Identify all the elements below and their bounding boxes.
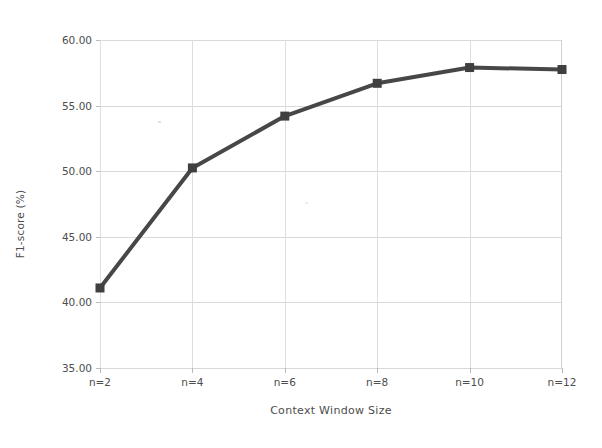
ytick-label-50: 50.00 — [32, 165, 92, 177]
series-line — [100, 68, 562, 288]
xtick-label-n8: n=8 — [342, 376, 412, 388]
data-point-n=12 — [558, 65, 567, 74]
series-markers — [96, 63, 567, 292]
ytick-label-45: 45.00 — [32, 231, 92, 243]
data-point-n=6 — [280, 112, 289, 121]
xtick-mark-n6 — [285, 368, 286, 373]
ytick-label-60: 60.00 — [32, 34, 92, 46]
xtick-label-n6: n=6 — [250, 376, 320, 388]
data-series-layer — [100, 40, 562, 368]
gridline-y-35 — [100, 368, 562, 369]
ytick-label-55: 55.00 — [32, 100, 92, 112]
plot-area: 60.00 55.00 50.00 45.00 40.00 35.00 n=2 … — [100, 40, 562, 368]
xtick-label-n4: n=4 — [157, 376, 227, 388]
data-point-n=4 — [188, 163, 197, 172]
xtick-mark-n2 — [100, 368, 101, 373]
xtick-label-n12: n=12 — [527, 376, 597, 388]
data-point-n=10 — [465, 63, 474, 72]
ytick-label-35: 35.00 — [32, 362, 92, 374]
xtick-mark-n8 — [377, 368, 378, 373]
scan-speck — [158, 121, 161, 123]
data-point-n=2 — [96, 283, 105, 292]
y-axis-title: F1-score (%) — [0, 0, 40, 448]
chart-figure: F1-score (%) 60.00 55.00 50.00 45.00 40.… — [0, 0, 602, 448]
ytick-label-40: 40.00 — [32, 296, 92, 308]
xtick-label-n10: n=10 — [435, 376, 505, 388]
x-axis-title: Context Window Size — [100, 404, 562, 417]
data-point-n=8 — [373, 79, 382, 88]
xtick-mark-n4 — [192, 368, 193, 373]
xtick-mark-n12 — [562, 368, 563, 373]
xtick-mark-n10 — [470, 368, 471, 373]
scan-speck — [305, 202, 308, 204]
xtick-label-n2: n=2 — [65, 376, 135, 388]
